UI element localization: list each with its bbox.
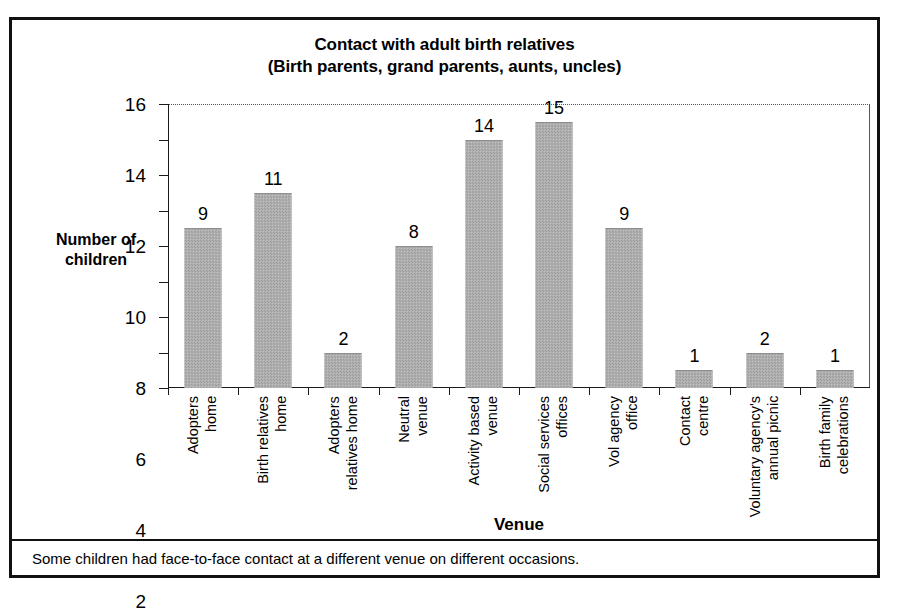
- bar[interactable]: [185, 228, 222, 388]
- x-category-label-line-1: Vol agency: [606, 396, 624, 467]
- y-tick-label-14: 14: [125, 165, 146, 187]
- x-category-label-line-2: offices: [554, 396, 572, 493]
- bar-value-label: 2: [338, 329, 348, 350]
- footnote-text: Some children had face-to-face contact a…: [32, 550, 579, 567]
- bar-value-label: 9: [619, 204, 629, 225]
- x-category-label-line-2: venue: [413, 396, 431, 443]
- bar-value-label: 1: [689, 346, 699, 367]
- x-tick: [238, 388, 239, 395]
- bar[interactable]: [255, 193, 292, 388]
- x-category-label-line-1: Birth relatives: [255, 396, 273, 484]
- x-category-label-line-2: annual picnic: [764, 396, 782, 517]
- bar[interactable]: [816, 370, 853, 388]
- x-tick: [659, 388, 660, 395]
- chart-title: Contact with adult birth relatives (Birt…: [12, 34, 877, 79]
- x-tick: [800, 388, 801, 395]
- bar-value-label: 9: [198, 204, 208, 225]
- bar-value-label: 8: [409, 222, 419, 243]
- x-tick: [168, 388, 169, 395]
- footnote-divider: [12, 539, 877, 541]
- bar[interactable]: [676, 370, 713, 388]
- bar-slot: 1: [800, 104, 870, 388]
- y-tick-0: 0: [159, 388, 168, 389]
- x-tick: [730, 388, 731, 395]
- x-category-label-line-1: Neutral: [396, 396, 414, 443]
- bar-slot: 15: [519, 104, 589, 388]
- bar-value-label: 1: [830, 346, 840, 367]
- x-category-label: Voluntary agency'sannual picnic: [747, 396, 782, 517]
- x-category-label-line-2: venue: [484, 396, 502, 485]
- x-tick: [308, 388, 309, 395]
- x-axis-title: Venue: [168, 515, 870, 535]
- x-category-label: Adoptersrelatives home: [326, 396, 361, 490]
- x-tick: [449, 388, 450, 395]
- x-category-label-line-2: celebrations: [835, 396, 853, 474]
- x-category-label-line-1: Voluntary agency's: [747, 396, 765, 517]
- bar-slot: 9: [589, 104, 659, 388]
- x-category-label-line-1: Contact: [677, 396, 695, 446]
- x-category-label: Birth familycelebrations: [817, 396, 852, 474]
- bar-slot: 9: [168, 104, 238, 388]
- bar-slot: 2: [308, 104, 378, 388]
- x-category-label: Neutralvenue: [396, 396, 431, 443]
- y-tick-label-16: 16: [125, 94, 146, 116]
- bar-value-label: 11: [264, 169, 283, 190]
- bar-slot: 11: [238, 104, 308, 388]
- bar[interactable]: [465, 140, 502, 389]
- x-category-label: Social servicesoffices: [536, 396, 571, 493]
- x-tick: [379, 388, 380, 395]
- x-category-label-line-2: office: [624, 396, 642, 467]
- bar-value-label: 14: [474, 116, 494, 137]
- x-category-label-line-2: home: [273, 396, 291, 484]
- y-tick-10: 10: [159, 211, 168, 212]
- bar-slot: 8: [379, 104, 449, 388]
- x-category-label-line-1: Social services: [536, 396, 554, 493]
- x-tick: [519, 388, 520, 395]
- bar[interactable]: [536, 122, 573, 388]
- y-tick-12: 12: [159, 175, 168, 176]
- plot-area: 0246810121416 9112814159121: [168, 104, 870, 388]
- bar-slot: 14: [449, 104, 519, 388]
- y-tick-8: 8: [159, 246, 168, 247]
- y-tick-2: 2: [159, 353, 168, 354]
- y-tick-label-8: 8: [135, 378, 146, 400]
- bar-value-label: 2: [760, 329, 770, 350]
- bar-slot: 1: [659, 104, 729, 388]
- bar-slot: 2: [730, 104, 800, 388]
- bar[interactable]: [325, 353, 362, 389]
- bar[interactable]: [606, 228, 643, 388]
- x-category-label-line-2: home: [203, 396, 221, 454]
- x-category-label: Activity basedvenue: [466, 396, 501, 485]
- y-tick-label-10: 10: [125, 307, 146, 329]
- x-category-label-line-1: Activity based: [466, 396, 484, 485]
- figure-frame: Contact with adult birth relatives (Birt…: [9, 17, 880, 578]
- y-tick-14: 14: [159, 140, 168, 141]
- x-category-label-line-1: Adopters: [326, 396, 344, 490]
- y-tick-label-2: 2: [135, 591, 146, 608]
- x-category-label: Vol agencyoffice: [606, 396, 641, 467]
- y-tick-label-6: 6: [135, 449, 146, 471]
- chart-title-subtitle: (Birth parents, grand parents, aunts, un…: [12, 56, 877, 78]
- bar[interactable]: [395, 246, 432, 388]
- chart-title-main: Contact with adult birth relatives: [314, 35, 574, 54]
- bar-value-label: 15: [544, 98, 564, 119]
- y-tick-6: 6: [159, 282, 168, 283]
- x-category-label: Adoptershome: [185, 396, 220, 454]
- x-category-label: Birth relativeshome: [255, 396, 290, 484]
- bar[interactable]: [746, 353, 783, 389]
- x-tick: [589, 388, 590, 395]
- x-category-label: Contactcentre: [677, 396, 712, 446]
- y-tick-label-12: 12: [125, 236, 146, 258]
- y-tick-16: 16: [159, 104, 168, 105]
- x-category-label-line-2: centre: [694, 396, 712, 446]
- y-tick-4: 4: [159, 317, 168, 318]
- x-category-label-line-1: Adopters: [185, 396, 203, 454]
- x-category-label-line-1: Birth family: [817, 396, 835, 474]
- x-category-label-line-2: relatives home: [343, 396, 361, 490]
